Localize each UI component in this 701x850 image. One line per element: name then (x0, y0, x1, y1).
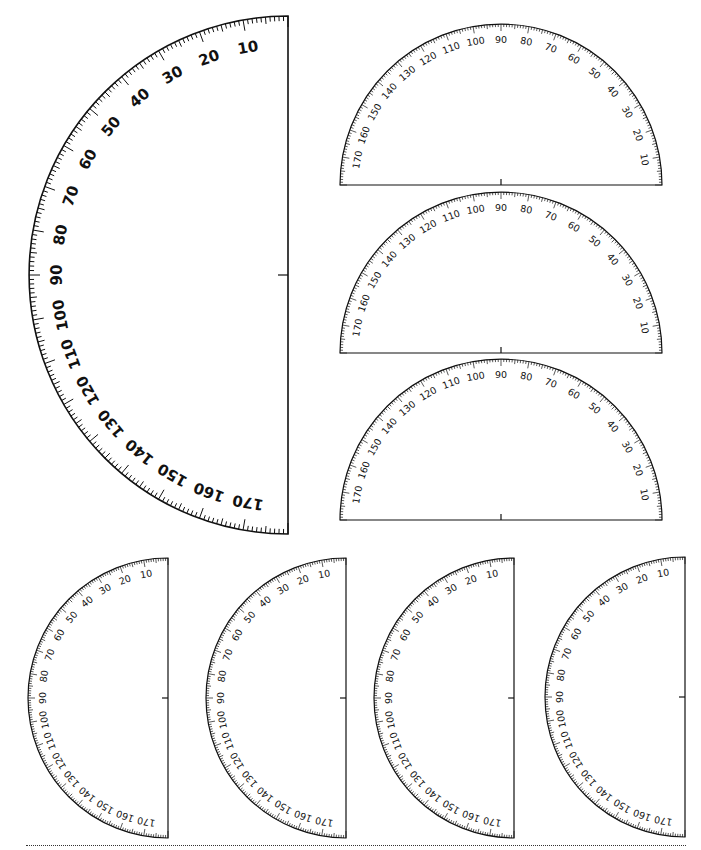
tick-mark (643, 452, 647, 454)
tick-mark (391, 67, 393, 69)
tick-mark (109, 571, 111, 575)
tick-mark (436, 582, 438, 584)
tick-mark (381, 740, 384, 741)
tick-mark (218, 754, 221, 755)
tick-mark (356, 114, 359, 115)
tick-mark (556, 642, 559, 643)
protractor-small-vertical-2: 1020304050607080901001101201301401501601… (206, 558, 346, 838)
tick-mark (183, 38, 185, 43)
tick-mark (218, 641, 221, 642)
tick-mark (411, 52, 413, 54)
tick-mark (576, 609, 578, 611)
tick-mark (406, 390, 408, 392)
tick-mark (179, 503, 182, 509)
tick-mark (43, 760, 46, 761)
tick-mark (291, 824, 292, 827)
degree-label: 150 (272, 798, 293, 817)
tick-mark (260, 588, 262, 590)
tick-mark (649, 828, 650, 832)
tick-mark (643, 449, 646, 450)
tick-mark (102, 451, 106, 454)
tick-mark (593, 591, 595, 593)
tick-mark (51, 378, 56, 380)
degree-label: 80 (519, 35, 533, 48)
tick-mark (363, 102, 366, 104)
tick-mark (591, 799, 593, 801)
tick-mark (90, 582, 92, 584)
tick-mark (609, 235, 611, 237)
tick-mark (552, 654, 555, 655)
tick-mark (221, 25, 223, 32)
tick-mark (387, 755, 391, 757)
tick-mark (78, 591, 82, 596)
tick-mark (38, 340, 45, 342)
tick-mark (402, 393, 404, 395)
tick-mark (204, 515, 206, 520)
tick-mark (600, 60, 602, 62)
degree-label: 100 (383, 710, 397, 730)
tick-mark (372, 88, 374, 90)
tick-mark (111, 570, 112, 573)
tick-mark (406, 223, 408, 225)
tick-mark (598, 393, 600, 395)
tick-mark (552, 33, 553, 36)
tick-mark (383, 410, 385, 412)
tick-mark (261, 17, 262, 22)
tick-mark (383, 75, 385, 77)
tick-mark (274, 578, 276, 581)
tick-mark (596, 391, 598, 393)
tick-mark (453, 821, 454, 824)
tick-mark (618, 245, 620, 247)
degree-label: 150 (440, 798, 461, 817)
tick-mark (387, 239, 390, 242)
protractor-outline (545, 557, 685, 837)
tick-mark (387, 71, 390, 74)
protractor-small-vertical-4: 1020304050607080901001101201301401501601… (545, 557, 685, 837)
degree-label: 130 (578, 768, 598, 789)
tick-mark (360, 107, 363, 108)
tick-mark (490, 560, 491, 567)
degree-label: 80 (554, 668, 567, 682)
tick-mark (630, 568, 631, 571)
tick-mark (446, 34, 448, 41)
tick-mark (620, 414, 622, 416)
degree-label: 20 (631, 128, 645, 143)
tick-mark (626, 570, 628, 574)
degree-label: 110 (387, 731, 404, 752)
tick-mark (643, 285, 647, 287)
tick-mark (652, 143, 656, 144)
tick-mark (81, 428, 85, 431)
tick-mark (459, 569, 460, 572)
tick-mark (291, 569, 292, 572)
tick-mark (74, 800, 76, 802)
tick-mark (233, 779, 235, 781)
tick-mark (387, 406, 390, 409)
tick-mark (289, 570, 290, 573)
tick-mark (575, 43, 576, 46)
tick-mark (404, 56, 406, 58)
tick-mark (621, 572, 622, 575)
degree-label: 60 (566, 386, 582, 402)
tick-mark (105, 92, 110, 97)
tick-mark (46, 764, 49, 765)
degree-label: 90 (37, 692, 48, 704)
tick-mark (362, 105, 368, 109)
degree-label: 10 (656, 566, 670, 579)
degree-label: 110 (441, 375, 462, 392)
tick-mark (42, 637, 45, 638)
tick-mark (143, 486, 146, 490)
tick-mark (349, 133, 352, 134)
tick-mark (419, 596, 421, 598)
degree-label: 60 (566, 219, 582, 235)
tick-mark (605, 582, 608, 586)
tick-mark (129, 475, 132, 479)
tick-mark (578, 607, 583, 611)
tick-mark (598, 226, 600, 228)
tick-mark (35, 221, 40, 222)
tick-mark (607, 581, 609, 583)
tick-mark (393, 65, 395, 67)
degree-label: 40 (605, 418, 621, 434)
tick-mark (254, 801, 256, 803)
tick-mark (423, 44, 424, 47)
protractor-outline (340, 192, 662, 353)
